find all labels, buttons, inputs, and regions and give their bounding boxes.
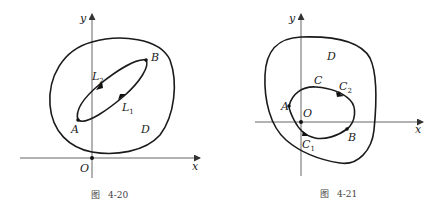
x-axis-label: x [415,123,422,136]
path-l2-curve [77,60,146,120]
point-b-label: B [347,131,356,144]
path-l1-label: L1 [121,101,134,116]
path-c2-curve [289,87,355,129]
origin-label: O [80,162,89,175]
x-axis-label: x [192,160,199,173]
curve-c-label: C [314,74,323,87]
region-label-d: D [140,123,150,136]
y-axis-label: y [288,12,296,25]
path-c1-label: C1 [302,138,315,153]
point-a-label: A [70,123,79,136]
path-c2-label: C2 [339,80,352,95]
point-a-label: A [280,100,289,113]
region-label-d: D [326,50,336,63]
figure-canvas: y x O D A B L2 L1 图4-20 y x O [0,0,435,211]
figure-caption: 图4-21 [320,189,357,199]
point-b-label: B [150,51,159,64]
figure-4-20: y x O D A B L2 L1 图4-20 [20,12,200,200]
origin-point [299,120,303,124]
point-b [144,58,148,62]
point-a [76,118,80,122]
c1-direction-arrow-icon [302,131,309,136]
y-axis-label: y [79,12,87,25]
path-l1-curve [78,60,147,121]
figure-caption: 图4-20 [91,190,128,200]
path-l2-label: L2 [91,70,104,85]
figure-4-21: y x O D A B C C2 C1 图4-21 [255,12,423,199]
origin-point [90,156,94,160]
origin-label: O [303,107,312,120]
